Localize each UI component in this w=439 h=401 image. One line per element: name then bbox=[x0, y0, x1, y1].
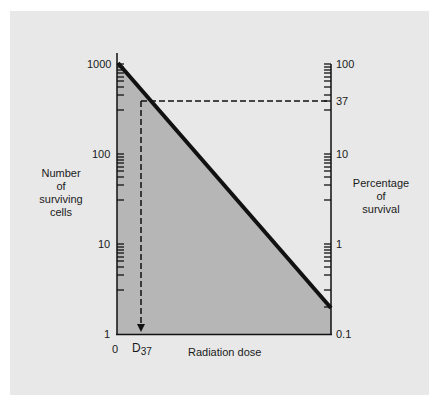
y-axis-left-title: Number of surviving cells bbox=[36, 167, 86, 219]
y-left-line-1: Number bbox=[36, 167, 86, 180]
x-axis-title: Radiation dose bbox=[188, 346, 261, 359]
x-tick-0: 0 bbox=[112, 343, 118, 356]
y-right-line-1: Percentage bbox=[350, 177, 412, 190]
right-tick-100: 100 bbox=[336, 58, 354, 71]
right-tick-0-1: 0.1 bbox=[336, 328, 351, 341]
y-right-line-3: survival bbox=[350, 203, 412, 216]
right-tick-1: 1 bbox=[336, 238, 342, 251]
y-left-line-2: of bbox=[36, 180, 86, 193]
x-tick-d37: D37 bbox=[132, 342, 152, 358]
left-tick-10: 10 bbox=[98, 238, 110, 251]
y-axis-right-title: Percentage of survival bbox=[350, 177, 412, 216]
right-tick-37: 37 bbox=[336, 95, 348, 108]
area-fill bbox=[117, 62, 331, 334]
y-left-line-4: cells bbox=[36, 206, 86, 219]
y-left-line-3: surviving bbox=[36, 193, 86, 206]
right-tick-10: 10 bbox=[336, 148, 348, 161]
d-label: D bbox=[132, 341, 141, 355]
y-right-line-2: of bbox=[350, 190, 412, 203]
d-subscript: 37 bbox=[141, 346, 152, 357]
left-tick-1000: 1000 bbox=[87, 58, 111, 71]
left-tick-1: 1 bbox=[104, 328, 110, 341]
left-tick-100: 100 bbox=[92, 148, 110, 161]
